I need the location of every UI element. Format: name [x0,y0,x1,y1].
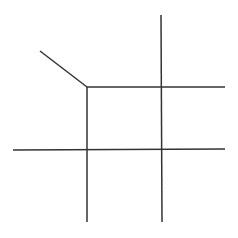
line-diagram [0,0,238,238]
bottom-horizontal-segment [13,149,225,150]
right-vertical-segment [161,15,162,222]
background [0,0,238,238]
